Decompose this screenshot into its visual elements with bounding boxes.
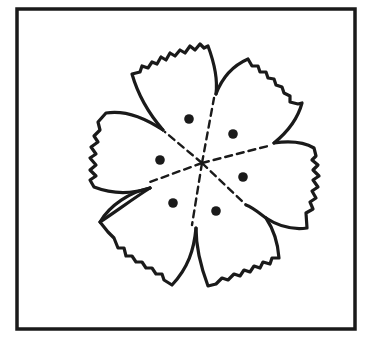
petal-lower-right bbox=[196, 218, 279, 286]
dot-left bbox=[155, 155, 165, 165]
dot-upper-right bbox=[228, 129, 238, 139]
petal-right bbox=[246, 142, 319, 229]
petal-upper-right bbox=[216, 59, 302, 143]
dot-right bbox=[238, 172, 248, 182]
petal-lower-left bbox=[100, 188, 196, 285]
dot-lower-left bbox=[168, 198, 178, 208]
dot-top bbox=[184, 114, 194, 124]
flower-diagram bbox=[0, 0, 368, 339]
petal-top bbox=[132, 44, 217, 130]
dot-lower-right bbox=[211, 206, 221, 216]
